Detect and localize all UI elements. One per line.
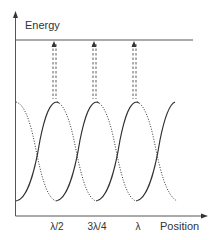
tick-label-lambda: λ [136, 221, 141, 232]
tick-label-three-quarter-lambda: 3λ/4 [88, 221, 107, 232]
solid-wave [16, 102, 175, 201]
x-axis-label: Position [160, 220, 199, 232]
y-axis-arrow-icon [13, 11, 18, 18]
transition-arrows [53, 44, 136, 99]
tick-label-half-lambda: λ/2 [50, 221, 64, 232]
energy-position-diagram: Energy Position λ/2 3λ/4 λ [0, 0, 216, 240]
dotted-wave [16, 102, 177, 201]
x-axis-arrow-icon [201, 214, 208, 219]
y-axis-label: Energy [25, 19, 60, 31]
